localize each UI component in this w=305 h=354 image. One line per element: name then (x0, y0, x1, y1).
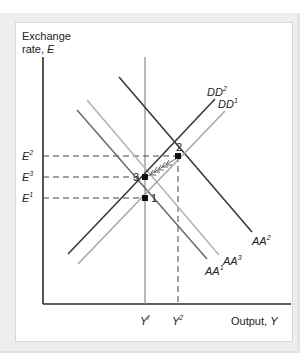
dd1-curve (78, 111, 225, 264)
point-3-marker (142, 174, 148, 180)
tick-yf: Yf (140, 314, 150, 327)
label-dd2: DD2 (207, 85, 227, 98)
y-axis-title-line1: Exchange (22, 30, 71, 42)
tick-e2: E2 (22, 149, 33, 162)
label-aa2: AA2 (251, 234, 271, 247)
point-2-label: 2 (176, 141, 182, 153)
tick-e1: E1 (22, 191, 33, 204)
tick-y2: Y2 (172, 314, 183, 327)
label-aa1: AA1 (204, 264, 224, 277)
tick-e3: E3 (22, 170, 33, 183)
label-dd1: DD1 (218, 97, 238, 110)
point-2-marker (175, 153, 181, 159)
dd2-curve (68, 99, 215, 254)
point-1-marker (142, 195, 148, 201)
point-1-label: 1 (151, 192, 157, 204)
aa-dd-diagram: Exchange rate, E 2 3 1 E2 E3 E1 Yf Y2 Ou… (0, 0, 305, 354)
y-axis-title-line2: rate, E (22, 43, 55, 55)
aa1-curve (77, 110, 207, 259)
adjustment-arrow (148, 158, 177, 176)
label-aa3: AA3 (222, 254, 242, 267)
x-axis-title: Output, Y (231, 315, 278, 327)
point-3-label: 3 (133, 171, 139, 183)
